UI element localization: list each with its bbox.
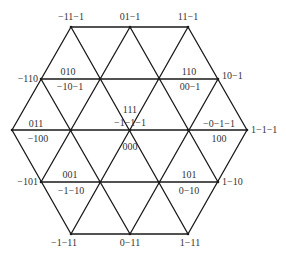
lattice-node [99,181,102,184]
lattice-edge [41,79,130,234]
lattice-node [40,181,43,184]
hexagonal-lattice-diagram: −11−101−111−1−110010−10−111000−110−1111−… [0,0,286,258]
vertex-label-top-left: −11−1 [58,11,84,22]
vertex-label-bottom-center: 0−11 [120,237,140,248]
lattice-node [40,78,43,81]
vertex-label-right: 1−1−1 [251,124,277,135]
vertex-label-upper-left-a: 010 [61,66,76,77]
lattice-node [158,78,161,81]
vertex-label-center-c: 000 [123,141,138,152]
lattice-node [129,129,132,132]
lattice-node [99,78,102,81]
vertex-label-upper-right-b: 00−1 [180,81,201,92]
vertex-label-center-b: −1−1−1 [114,117,146,128]
vertex-label-right-a: −0−1−1 [203,118,235,129]
lattice-node [129,26,132,29]
vertex-label-center-a: 111 [123,104,137,115]
vertex-label-left-b: −100 [28,133,49,144]
vertex-label-right-b: 100 [212,133,227,144]
lattice-node [187,233,190,236]
lattice-node [217,78,220,81]
lattice-node [70,26,73,29]
vertex-label-upper-left: −110 [18,73,38,84]
lattice-node [70,233,73,236]
lattice-node [70,129,73,132]
lattice-node [129,233,132,236]
vertex-label-bottom-right: 1−11 [180,237,200,248]
vertex-label-lower-right: 1−10 [222,176,243,187]
vertex-label-bottom-left: −1−11 [51,237,77,248]
lattice-edge [130,27,218,182]
lattice-node [11,129,14,132]
lattice-edge [130,79,218,234]
vertex-label-lower-right-a: 101 [182,169,197,180]
lattice-edge [41,27,130,182]
lattice-node [246,129,249,132]
vertex-label-lower-left: −101 [17,176,38,187]
lattice-node [187,129,190,132]
vertex-label-lower-left-a: 001 [63,169,78,180]
vertex-label-lower-right-b: 0−10 [179,185,200,196]
vertex-label-lower-left-b: −1−10 [58,185,84,196]
lattice-node [217,181,220,184]
lattice-node [158,181,161,184]
vertex-label-left-a: 011 [29,118,44,129]
lattice-node [187,26,190,29]
vertex-label-upper-left-b: −10−1 [57,81,83,92]
vertex-label-upper-right-a: 110 [182,66,197,77]
vertex-label-top-center: 01−1 [120,11,141,22]
vertex-label-upper-right: 10−1 [222,70,243,81]
vertex-label-top-right: 11−1 [178,11,198,22]
